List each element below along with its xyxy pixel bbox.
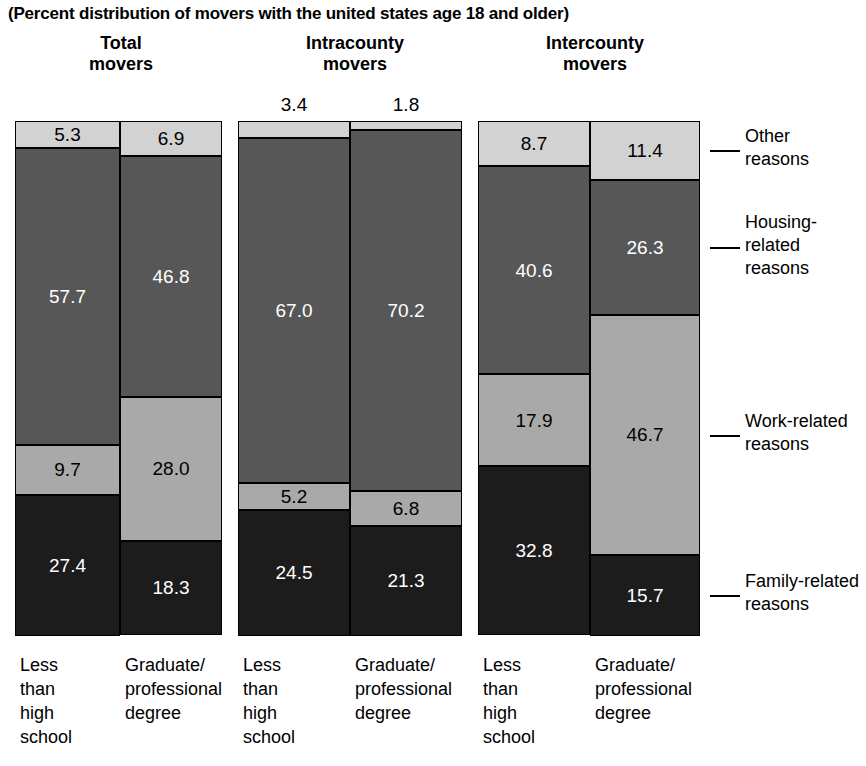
segment-value-label: 70.2 (388, 301, 425, 320)
segment-value-label: 26.3 (627, 238, 664, 257)
segment-other[interactable]: 8.7 (478, 121, 590, 166)
category-label-g3-b2: Graduate/professionaldegree (595, 653, 745, 725)
bar-g1-b1[interactable]: 5.357.79.727.4 (15, 121, 120, 635)
group-title-line1: Total (100, 33, 142, 53)
outside-value-label-g2-b2: 1.8 (350, 94, 462, 116)
segment-work[interactable]: 6.8 (350, 491, 462, 526)
segment-housing[interactable]: 46.8 (120, 156, 222, 397)
legend-label-line: reasons (745, 593, 859, 616)
segment-value-label: 27.4 (49, 556, 86, 575)
segment-other[interactable]: 6.9 (120, 121, 222, 156)
segment-work[interactable]: 5.2 (238, 483, 350, 510)
segment-value-label: 67.0 (276, 301, 313, 320)
bar-g2-b2[interactable]: 70.26.821.3 (350, 121, 462, 635)
category-label-line: school (243, 725, 395, 749)
legend-item-family[interactable]: Family-relatedreasons (745, 570, 859, 616)
segment-housing[interactable]: 26.3 (590, 180, 700, 315)
legend-label-line: Family-related (745, 570, 859, 593)
category-label-line: Graduate/ (595, 653, 745, 677)
group-title-line1: Intracounty (306, 33, 404, 53)
segment-work[interactable]: 46.7 (590, 315, 700, 555)
outside-value-label-g2-b1: 3.4 (238, 94, 350, 116)
segment-work[interactable]: 9.7 (15, 445, 120, 495)
group-title-line1: Intercounty (546, 33, 644, 53)
segment-value-label: 32.8 (516, 541, 553, 560)
legend-label-line: Housing- (745, 211, 817, 234)
segment-family[interactable]: 21.3 (350, 526, 462, 635)
bar-g3-b2[interactable]: 11.426.346.715.7 (590, 121, 700, 635)
segment-value-label: 6.8 (393, 499, 419, 518)
segment-value-label: 15.7 (627, 586, 664, 605)
segment-family[interactable]: 24.5 (238, 510, 350, 636)
bar-g2-b1[interactable]: 67.05.224.5 (238, 121, 350, 635)
group-title-line2: movers (470, 54, 720, 75)
group-title-3: Intercountymovers (470, 33, 720, 75)
legend-tick-housing (710, 247, 740, 249)
segment-value-label: 18.3 (153, 578, 190, 597)
segment-work[interactable]: 28.0 (120, 397, 222, 541)
legend-item-other[interactable]: Otherreasons (745, 125, 809, 171)
legend-label-line: Work-related (745, 410, 848, 433)
category-label-line: professional (595, 677, 745, 701)
group-title-2: Intracountymovers (230, 33, 480, 75)
segment-other[interactable]: 5.3 (15, 121, 120, 148)
legend-label-line: reasons (745, 257, 817, 280)
segment-family[interactable]: 18.3 (120, 541, 222, 635)
segment-value-label: 46.8 (153, 267, 190, 286)
legend-label-line: reasons (745, 433, 848, 456)
segment-value-label: 28.0 (153, 459, 190, 478)
segment-value-label: 57.7 (49, 287, 86, 306)
bar-g3-b1[interactable]: 8.740.617.932.8 (478, 121, 590, 635)
group-title-line2: movers (6, 54, 236, 75)
legend-item-work[interactable]: Work-relatedreasons (745, 410, 848, 456)
legend-tick-work (710, 435, 740, 437)
legend-tick-family (710, 595, 740, 597)
segment-housing[interactable]: 40.6 (478, 166, 590, 375)
segment-family[interactable]: 15.7 (590, 555, 700, 636)
category-label-line: school (483, 725, 635, 749)
legend-label-line: related (745, 234, 817, 257)
segment-value-label: 8.7 (521, 134, 547, 153)
segment-value-label: 5.3 (54, 125, 80, 144)
segment-value-label: 40.6 (516, 261, 553, 280)
segment-other[interactable] (238, 121, 350, 138)
group-title-1: Totalmovers (6, 33, 236, 75)
segment-value-label: 17.9 (516, 411, 553, 430)
segment-value-label: 9.7 (54, 460, 80, 479)
stacked-bar-chart: TotalmoversIntracountymoversIntercountym… (0, 0, 866, 766)
legend-label-line: reasons (745, 148, 809, 171)
legend-item-housing[interactable]: Housing-relatedreasons (745, 211, 817, 280)
segment-value-label: 24.5 (276, 563, 313, 582)
segment-family[interactable]: 27.4 (15, 495, 120, 636)
segment-other[interactable] (350, 121, 462, 130)
segment-value-label: 21.3 (388, 571, 425, 590)
category-label-line: degree (595, 701, 745, 725)
segment-value-label: 5.2 (281, 487, 307, 506)
segment-work[interactable]: 17.9 (478, 374, 590, 466)
legend-tick-other (710, 150, 740, 152)
segment-value-label: 11.4 (627, 141, 663, 160)
group-title-line2: movers (230, 54, 480, 75)
bar-g1-b2[interactable]: 6.946.828.018.3 (120, 121, 222, 635)
segment-housing[interactable]: 70.2 (350, 130, 462, 491)
segment-other[interactable]: 11.4 (590, 121, 700, 180)
category-label-line: school (20, 725, 165, 749)
segment-housing[interactable]: 57.7 (15, 148, 120, 445)
segment-value-label: 6.9 (158, 129, 184, 148)
segment-housing[interactable]: 67.0 (238, 138, 350, 482)
segment-value-label: 46.7 (627, 425, 664, 444)
legend-label-line: Other (745, 125, 809, 148)
segment-family[interactable]: 32.8 (478, 466, 590, 635)
